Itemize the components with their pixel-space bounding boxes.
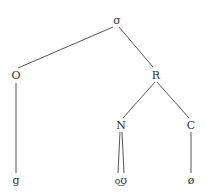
leaf-g: g [12, 174, 19, 187]
leaf-null: ø [188, 174, 195, 187]
syllable-tree-diagram: σ O R N C g o͜ʊ ø [0, 0, 206, 193]
edge-root-rhyme [119, 27, 153, 67]
edge-nucleus-u [122, 132, 124, 173]
node-nucleus: N [116, 119, 126, 132]
edge-root-onset [18, 27, 113, 68]
edge-rhyme-coda [157, 82, 189, 118]
edge-nucleus-o [118, 132, 120, 173]
edge-rhyme-nucleus [123, 82, 155, 118]
node-rhyme: R [152, 69, 161, 82]
leaf-ou: o͜ʊ [115, 174, 128, 187]
node-coda: C [187, 119, 195, 132]
node-onset: O [11, 69, 20, 82]
node-sigma: σ [113, 14, 121, 27]
